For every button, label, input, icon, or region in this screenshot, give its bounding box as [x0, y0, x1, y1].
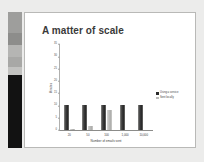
bar-series-1: [82, 105, 87, 130]
bar-series-2: [70, 129, 75, 130]
page-title: A matter of scale: [42, 25, 124, 36]
slide-canvas[interactable]: A matter of scale Minutes 05101520253035…: [24, 12, 196, 148]
y-axis-tick-label: 30: [54, 55, 57, 58]
bar-groups: 20501001,00010,000: [60, 44, 153, 130]
bar-series-2: [88, 126, 93, 130]
bar-group: 50: [79, 44, 98, 130]
bar-series-1: [101, 105, 106, 130]
x-axis-tick-label: 10,000: [139, 133, 148, 137]
y-axis-tick-label: 15: [54, 92, 57, 95]
x-axis-title: Number of emails sent: [59, 139, 153, 143]
legend-swatch-icon: [156, 92, 159, 95]
slide-thumbnail-4[interactable]: [8, 57, 22, 67]
y-axis-tick-label: 0: [56, 129, 57, 132]
slide-thumbnail-1[interactable]: [8, 12, 22, 33]
bar-series-2: [107, 110, 112, 130]
bar-series-1: [138, 105, 143, 130]
bar-chart: Minutes 05101520253035 20501001,00010,00…: [59, 44, 153, 131]
x-axis-tick-label: 20: [68, 133, 71, 137]
chart-legend: Using a serviceSent locally: [156, 92, 178, 101]
legend-item[interactable]: Using a service: [156, 92, 178, 95]
y-axis-tick-label: 5: [56, 116, 57, 119]
legend-label: Sent locally: [160, 97, 174, 100]
legend-swatch-icon: [156, 97, 159, 100]
bar-group: 10,000: [134, 44, 153, 130]
bar-series-1: [120, 105, 125, 130]
slide-thumbnail-2[interactable]: [8, 33, 22, 45]
slide-thumbnail-3[interactable]: [8, 45, 22, 57]
bar-group: 100: [97, 44, 116, 130]
slide-thumbnail-5[interactable]: [8, 67, 22, 75]
x-axis-tick-label: 100: [104, 133, 109, 137]
x-axis-tick-label: 1,000: [122, 133, 129, 137]
y-axis-tick-label: 10: [54, 104, 57, 107]
bar-series-1: [64, 105, 69, 130]
legend-label: Using a service: [160, 92, 178, 95]
presentation-slide-view: A matter of scale Minutes 05101520253035…: [0, 0, 204, 162]
x-axis-tick-label: 50: [86, 133, 89, 137]
bar-group: 20: [60, 44, 79, 130]
slide-thumbnail-6[interactable]: [8, 75, 22, 148]
bar-group: 1,000: [116, 44, 135, 130]
x-axis-line: [59, 130, 153, 131]
y-axis-tick-label: 20: [54, 80, 57, 83]
y-axis-tick-label: 25: [54, 67, 57, 70]
y-axis-tick-label: 35: [54, 43, 57, 46]
y-axis-title: Minutes: [49, 82, 53, 93]
legend-item[interactable]: Sent locally: [156, 97, 178, 100]
